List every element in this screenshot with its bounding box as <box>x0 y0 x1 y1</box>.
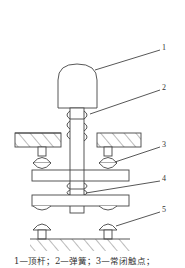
moving-contact-bridge-lower <box>32 195 129 206</box>
no-fixed-contact-left <box>33 224 51 239</box>
callout-4: 4 <box>162 174 166 183</box>
switch-diagram <box>0 0 185 268</box>
callout-2: 2 <box>162 83 166 92</box>
base-plate <box>30 239 130 251</box>
no-moving-contact-right <box>99 206 117 210</box>
no-moving-contact-left <box>33 206 51 210</box>
nc-contact-right <box>99 147 117 169</box>
moving-contact-bridge-upper <box>32 170 129 181</box>
upper-right-fixed-plate <box>97 133 141 147</box>
nc-contact-left <box>33 147 51 169</box>
upper-left-fixed-plate <box>15 133 61 147</box>
no-fixed-contact-right <box>99 224 117 239</box>
callout-1: 1 <box>162 43 166 52</box>
figure-caption: 1—顶杆；2—弹簧；3—常闭触点； <box>14 254 184 266</box>
pushbutton-cap <box>58 64 97 108</box>
callout-5: 5 <box>162 205 166 214</box>
callout-3: 3 <box>162 140 166 149</box>
